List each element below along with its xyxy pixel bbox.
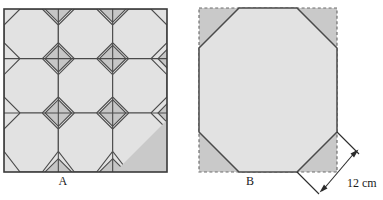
figure-a-tiling bbox=[0, 0, 184, 185]
dimension-label: 12 cm bbox=[347, 176, 377, 191]
figure-a-group bbox=[0, 0, 184, 185]
figure-b-octagon bbox=[199, 8, 337, 172]
octagon-tile bbox=[113, 59, 167, 113]
octagon-tile bbox=[58, 9, 112, 59]
geometry-figures-svg bbox=[0, 0, 383, 200]
extension-line bbox=[297, 172, 319, 194]
extension-line bbox=[337, 132, 359, 154]
diagram-canvas: A B 12 cm bbox=[0, 0, 383, 200]
figure-b-group bbox=[199, 8, 359, 194]
octagon-tile bbox=[4, 9, 58, 59]
figure-a-label: A bbox=[56, 174, 70, 189]
octagon-tile bbox=[4, 59, 58, 113]
figure-b-label: B bbox=[243, 174, 257, 189]
octagon-tile bbox=[58, 59, 112, 113]
octagon-tile bbox=[113, 9, 167, 59]
